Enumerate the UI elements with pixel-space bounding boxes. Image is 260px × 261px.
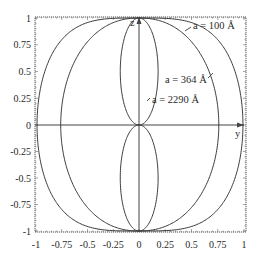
y-tick-label: -1 <box>23 226 31 237</box>
x-tick-label: 0.5 <box>185 239 198 250</box>
x-tick-label: -0.75 <box>51 239 72 250</box>
leader-a-2290 <box>147 98 150 101</box>
x-tick-labels: -1-0.75-0.5-0.2500.250.50.751 <box>32 239 247 250</box>
x-tick-label: -0.25 <box>103 239 124 250</box>
x-tick-label: 0.25 <box>157 239 175 250</box>
y-tick-label: 0 <box>26 120 31 131</box>
polar-pattern-chart: -1-0.75-0.5-0.2500.250.50.751 -1-0.75-0.… <box>0 0 260 261</box>
label-a-364: a = 364 Å <box>165 74 207 85</box>
x-tick-label: 0.75 <box>209 239 227 250</box>
y-tick-label: 0.75 <box>14 39 32 50</box>
y-tick-label: -0.75 <box>10 199 31 210</box>
leader-a-100 <box>185 27 191 31</box>
axis-label-y: y <box>235 128 241 139</box>
label-a-2290: a = 2290 Å <box>152 94 199 105</box>
x-tick-label: -1 <box>32 239 40 250</box>
y-tick-label: -0.25 <box>10 146 31 157</box>
curve-annotations: a = 100 Å a = 364 Å a = 2290 Å <box>147 20 235 105</box>
x-tick-label: 0 <box>137 239 142 250</box>
x-tick-label: -0.5 <box>80 239 96 250</box>
y-tick-label: 0.25 <box>14 93 32 104</box>
y-tick-label: 1 <box>26 13 31 24</box>
y-tick-label: 0.5 <box>19 66 32 77</box>
label-a-100: a = 100 Å <box>193 20 235 31</box>
y-tick-label: -0.5 <box>15 173 31 184</box>
y-tick-labels: -1-0.75-0.5-0.2500.250.50.751 <box>10 13 31 237</box>
leader-a-364 <box>208 73 213 78</box>
x-tick-label: 1 <box>242 239 247 250</box>
